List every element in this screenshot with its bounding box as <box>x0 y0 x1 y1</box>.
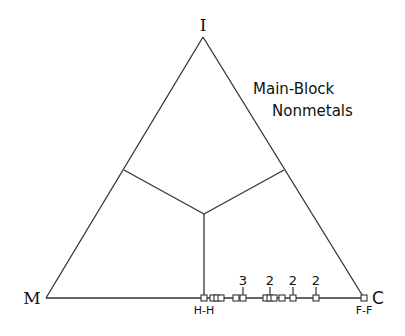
vertex-label-ionic: I <box>200 15 207 35</box>
data-points: H-H3222F-F <box>194 273 373 317</box>
boundary-right <box>204 170 284 214</box>
point-marker <box>201 295 207 301</box>
triangle-outline <box>46 37 364 298</box>
point-marker <box>240 295 246 301</box>
point-marker <box>271 295 277 301</box>
point-marker <box>313 295 319 301</box>
vertex-label-metallic: M <box>23 288 40 308</box>
diagram-title-line-2: Nonmetals <box>272 102 353 120</box>
point-name-label: F-F <box>356 304 373 317</box>
point-marker <box>290 295 296 301</box>
point-count-label: 2 <box>266 273 274 288</box>
point-count-label: 3 <box>239 273 247 288</box>
data-point <box>271 295 277 301</box>
point-count-label: 2 <box>289 273 297 288</box>
data-point: 2 <box>289 273 297 301</box>
point-count-label: 2 <box>312 273 320 288</box>
boundary-left <box>124 170 204 214</box>
point-marker <box>361 295 367 301</box>
point-name-label: H-H <box>194 304 215 317</box>
edge-right <box>203 37 364 298</box>
data-point <box>279 295 285 301</box>
edge-left <box>46 37 203 298</box>
point-marker <box>233 295 239 301</box>
vertex-label-covalent: C <box>372 288 384 308</box>
data-point: 2 <box>312 273 320 301</box>
point-marker <box>218 295 224 301</box>
data-point <box>233 295 239 301</box>
ternary-bond-diagram: H-H3222F-F I M C Main-Block Nonmetals <box>0 0 405 336</box>
data-point: 3 <box>239 273 247 301</box>
region-boundaries <box>124 170 284 298</box>
point-marker <box>279 295 285 301</box>
diagram-title-line-1: Main-Block <box>253 80 335 98</box>
data-point <box>218 295 224 301</box>
